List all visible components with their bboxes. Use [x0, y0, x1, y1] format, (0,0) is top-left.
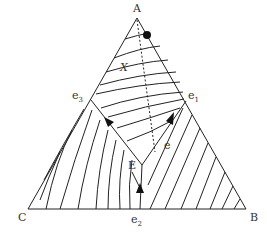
- arrow-icon-e3: [104, 117, 114, 127]
- eutectic-e1-label: e1: [188, 90, 199, 104]
- eutectic-e3-label: e3: [72, 90, 83, 104]
- ternary-point-e-label: E: [128, 160, 136, 171]
- boundary-e1-E: [142, 101, 186, 165]
- vertex-a-label: A: [133, 3, 141, 14]
- ternary-diagram: [0, 0, 267, 238]
- point-x-label: X: [120, 62, 128, 73]
- vertex-c-label: C: [18, 212, 26, 223]
- eutectic-e2-label: e2: [131, 214, 142, 228]
- vertex-b-label: B: [250, 212, 258, 223]
- composition-point-x: [143, 31, 151, 39]
- triangle-outline: [28, 18, 246, 209]
- boundary-e-label: e: [164, 140, 171, 151]
- arrow-icon-e2: [136, 183, 144, 193]
